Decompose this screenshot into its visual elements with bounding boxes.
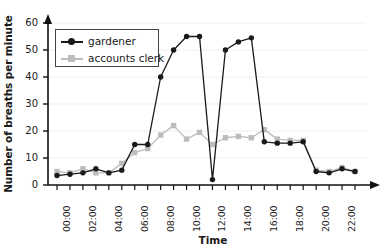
x-tick-label: 08:00 <box>165 206 176 232</box>
x-tick-label: 12:00 <box>216 206 227 232</box>
y-tick-label-wrap: 10 <box>18 153 38 163</box>
y-tick-label: 50 <box>18 45 38 55</box>
legend-marker-square-icon <box>68 55 75 62</box>
data-point-gardener-11:00 <box>197 34 202 39</box>
x-tick-label: 10:00 <box>191 206 202 232</box>
x-tick-label-wrap: 18:00 <box>285 192 295 232</box>
x-tick-label: 22:00 <box>346 206 357 232</box>
chart-figure: Number of breaths per minute Time 010203… <box>0 0 389 252</box>
y-tick-label: 30 <box>18 99 38 109</box>
chart-legend: gardeneraccounts clerk <box>55 29 159 67</box>
x-tick-label: 16:00 <box>268 206 279 232</box>
data-point-gardener-15:00 <box>249 35 254 40</box>
data-point-gardener-08:00 <box>158 74 163 79</box>
data-point-gardener-02:00 <box>80 170 85 175</box>
data-point-accounts-clerk-13:00 <box>223 135 228 140</box>
data-point-accounts-clerk-06:00 <box>132 150 137 155</box>
y-tick-label: 40 <box>18 72 38 82</box>
y-tick-label-wrap: 20 <box>18 126 38 136</box>
data-point-gardener-05:00 <box>119 167 124 172</box>
x-tick-label-wrap: 00:00 <box>52 192 62 232</box>
x-tick-label-wrap: 22:00 <box>337 192 347 232</box>
x-tick-label-wrap: 10:00 <box>182 192 192 232</box>
data-point-accounts-clerk-14:00 <box>236 134 241 139</box>
x-tick-label-wrap: 14:00 <box>233 192 243 232</box>
y-tick-label-wrap: 60 <box>18 18 38 28</box>
data-point-accounts-clerk-11:00 <box>197 130 202 135</box>
x-tick-label: 06:00 <box>139 206 150 232</box>
y-tick-label-wrap: 40 <box>18 72 38 82</box>
x-axis-arrow <box>370 181 380 189</box>
x-tick-label: 14:00 <box>242 206 253 232</box>
y-tick-label-wrap: 0 <box>18 180 38 190</box>
data-point-accounts-clerk-15:00 <box>249 135 254 140</box>
legend-item-gardener[interactable]: gardener <box>56 33 158 50</box>
data-point-gardener-19:00 <box>300 139 305 144</box>
y-tick-label: 20 <box>18 126 38 136</box>
y-tick-label-wrap: 30 <box>18 99 38 109</box>
legend-marker-circle-icon <box>68 38 75 45</box>
y-tick-label: 0 <box>18 180 38 190</box>
data-point-gardener-01:00 <box>67 172 72 177</box>
legend-item-accounts-clerk[interactable]: accounts clerk <box>56 50 158 67</box>
data-point-accounts-clerk-09:00 <box>171 123 176 128</box>
data-point-accounts-clerk-12:00 <box>210 142 215 147</box>
y-tick-label: 60 <box>18 18 38 28</box>
data-point-gardener-09:00 <box>171 47 176 52</box>
x-tick-label: 20:00 <box>320 206 331 232</box>
legend-label: accounts clerk <box>88 52 164 64</box>
data-point-gardener-06:00 <box>132 142 137 147</box>
data-point-gardener-03:00 <box>93 166 98 171</box>
data-point-gardener-13:00 <box>223 47 228 52</box>
x-tick-label: 18:00 <box>294 206 305 232</box>
data-point-gardener-12:00 <box>210 177 215 182</box>
x-tick-label: 02:00 <box>87 206 98 232</box>
data-point-gardener-04:00 <box>106 170 111 175</box>
x-tick-label: 00:00 <box>61 206 72 232</box>
series-line-accounts-clerk <box>57 126 355 173</box>
x-tick-label-wrap: 20:00 <box>311 192 321 232</box>
data-point-gardener-17:00 <box>275 140 280 145</box>
data-point-gardener-14:00 <box>236 39 241 44</box>
x-tick-label-wrap: 12:00 <box>207 192 217 232</box>
data-point-gardener-23:00 <box>352 169 357 174</box>
data-point-accounts-clerk-10:00 <box>184 136 189 141</box>
x-tick-label-wrap: 06:00 <box>130 192 140 232</box>
data-point-gardener-00:00 <box>54 173 59 178</box>
data-point-gardener-20:00 <box>313 169 318 174</box>
x-tick-label-wrap: 04:00 <box>104 192 114 232</box>
data-point-gardener-21:00 <box>326 170 331 175</box>
y-tick-label-wrap: 50 <box>18 45 38 55</box>
data-point-gardener-18:00 <box>288 140 293 145</box>
data-point-gardener-10:00 <box>184 34 189 39</box>
x-tick-label-wrap: 02:00 <box>78 192 88 232</box>
x-tick-label: 04:00 <box>113 206 124 232</box>
data-point-gardener-07:00 <box>145 142 150 147</box>
data-point-accounts-clerk-08:00 <box>158 132 163 137</box>
data-point-gardener-22:00 <box>339 166 344 171</box>
x-tick-label-wrap: 08:00 <box>156 192 166 232</box>
data-point-gardener-16:00 <box>262 139 267 144</box>
legend-label: gardener <box>88 35 136 47</box>
x-tick-label-wrap: 16:00 <box>259 192 269 232</box>
y-tick-label: 10 <box>18 153 38 163</box>
